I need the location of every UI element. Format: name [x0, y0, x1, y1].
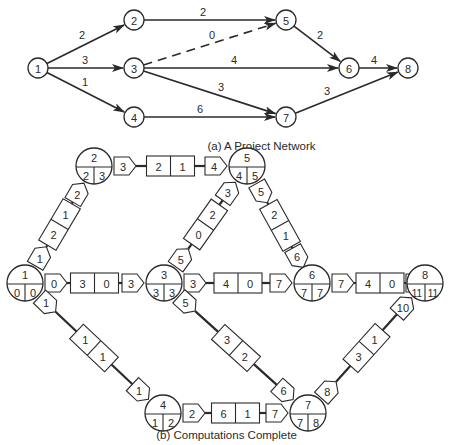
- node-latest: 11: [428, 288, 439, 299]
- edge-2-5: 2: [144, 6, 275, 20]
- activity-1-2: 1212: [27, 179, 91, 271]
- node-label: 5: [283, 15, 289, 27]
- svg-text:1: 1: [136, 385, 142, 397]
- activity-slack: 1: [283, 230, 289, 242]
- activity-duration: 3: [79, 278, 85, 290]
- node-latest: 3: [99, 170, 105, 182]
- node-circle: [7, 265, 43, 301]
- activity-3-6: 3407: [184, 273, 292, 293]
- connector: [111, 364, 132, 384]
- edge-5-6: 2: [294, 26, 340, 61]
- svg-text:2: 2: [189, 408, 195, 420]
- node-latest: 3: [169, 287, 175, 299]
- node-label: 7: [283, 112, 289, 124]
- node-id: 4: [160, 399, 166, 411]
- activity-slack: 1: [179, 161, 185, 173]
- svg-text:3: 3: [128, 278, 134, 290]
- edge-duration-label: 2: [200, 6, 206, 18]
- node-earliest: 11: [412, 288, 423, 299]
- activity-duration: 3: [224, 334, 230, 346]
- edge-duration-label: 0: [209, 29, 215, 41]
- node-circle: [145, 395, 181, 431]
- node-circle: [407, 265, 443, 301]
- svg-text:7: 7: [272, 408, 278, 420]
- connector: [254, 364, 277, 385]
- edge-4-7: 6: [144, 103, 275, 117]
- activity-box: 40: [214, 273, 262, 293]
- start-tag: 1: [33, 290, 61, 318]
- activity-duration: 2: [50, 229, 56, 241]
- node-1: 1: [28, 58, 48, 78]
- end-tag: 1: [126, 378, 154, 406]
- activity-slack: 1: [371, 334, 377, 346]
- svg-text:3: 3: [190, 278, 196, 290]
- activity-box: 02: [183, 199, 227, 250]
- svg-text:0: 0: [51, 278, 57, 290]
- connector: [56, 312, 77, 332]
- node-latest: 2: [168, 417, 174, 429]
- svg-text:5: 5: [178, 254, 184, 266]
- event-node-3: 333: [146, 265, 182, 301]
- node-latest: 8: [313, 417, 319, 429]
- activity-1-3: 0303: [45, 273, 144, 293]
- activity-duration: 0: [195, 229, 201, 241]
- event-node-1: 100: [7, 265, 43, 301]
- end-tag: 6: [285, 244, 311, 272]
- connector: [267, 203, 268, 205]
- activity-slack: 2: [242, 351, 248, 363]
- node-circle: [294, 265, 330, 301]
- svg-text:10: 10: [397, 302, 409, 314]
- edge-duration-label: 3: [218, 81, 224, 93]
- caption-a: (a) A Project Network: [0, 140, 453, 152]
- connector: [188, 244, 191, 249]
- node-latest: 0: [30, 287, 36, 299]
- edge-duration-label: 1: [82, 76, 88, 88]
- node-label: 6: [346, 63, 352, 75]
- node-2: 2: [124, 10, 144, 30]
- caption-a-text: (a) A Project Network: [207, 140, 315, 152]
- edge-1-3: 3: [48, 54, 123, 68]
- activity-6-8: 74011: [332, 273, 428, 293]
- node-3: 3: [124, 58, 144, 78]
- activity-slack: 2: [209, 209, 215, 221]
- edge-duration-label: 2: [317, 29, 323, 41]
- event-node-8: 81111: [407, 265, 443, 301]
- event-node-6: 677: [294, 265, 330, 301]
- node-latest: 5: [252, 170, 258, 182]
- node-label: 2: [131, 15, 137, 27]
- node-label: 1: [35, 63, 41, 75]
- edge-duration-label: 6: [197, 103, 203, 115]
- svg-text:1: 1: [43, 297, 49, 309]
- activity-box: 31: [343, 323, 390, 372]
- start-tag: 8: [315, 376, 343, 404]
- node-id: 6: [309, 269, 315, 281]
- node-7: 7: [276, 107, 296, 127]
- node-5: 5: [276, 10, 296, 30]
- edge-duration-label: 3: [82, 54, 88, 66]
- connector: [292, 246, 293, 248]
- edge-3-7: 3: [144, 71, 276, 114]
- start-tag: 3: [184, 274, 206, 292]
- arrow-icon: [144, 71, 276, 114]
- start-tag: 2: [183, 404, 205, 422]
- activity-4-7: 2617: [183, 403, 288, 423]
- node-label: 8: [405, 63, 411, 75]
- activity-box: 61: [212, 403, 260, 423]
- node-id: 8: [422, 269, 428, 281]
- end-tag: 6: [271, 378, 299, 406]
- activity-box: 32: [211, 324, 260, 371]
- svg-text:7: 7: [338, 278, 344, 290]
- event-node-4: 412: [145, 395, 181, 431]
- node-latest: 7: [317, 287, 323, 299]
- start-tag: 5: [168, 244, 195, 272]
- activity-duration: 6: [220, 408, 226, 420]
- activity-box: 40: [356, 273, 404, 293]
- project-network-figure: 2312043624312345678 (a) A Project Networ…: [0, 0, 453, 445]
- activity-3-7: 5326: [173, 290, 299, 407]
- edge-duration-label: 3: [324, 85, 330, 97]
- node-circle: [290, 395, 326, 431]
- activity-box: 11: [70, 324, 119, 371]
- svg-text:7: 7: [276, 278, 282, 290]
- end-tag: 11: [406, 274, 428, 292]
- svg-text:3: 3: [225, 187, 231, 199]
